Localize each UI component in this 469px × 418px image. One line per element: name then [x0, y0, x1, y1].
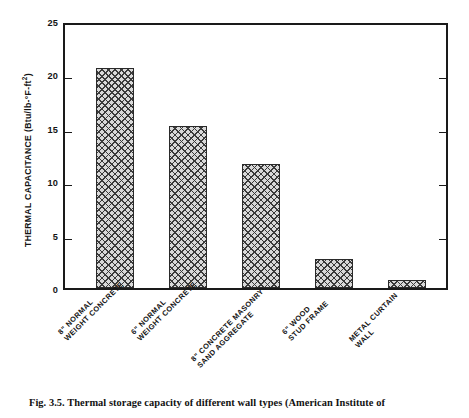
x-tick-label-8in-concrete-masonry-sand-aggregate: 8" CONCRETE MASONRY SAND AGGREGATE — [189, 287, 272, 370]
y-tick-label-25: 25 — [36, 18, 58, 28]
y-tick-mark-left-5 — [65, 239, 72, 240]
y-tick-label-10: 10 — [36, 178, 58, 188]
plot-area — [63, 23, 448, 290]
figure-caption: Fig. 3.5. Thermal storage capacity of di… — [29, 396, 457, 409]
x-label-line1: 8" CONCRETE MASONRY — [189, 287, 266, 364]
y-axis-title-mid: F-ft — [23, 80, 33, 95]
bar-metal-curtain-wall — [388, 280, 426, 288]
y-tick-mark-left-10 — [65, 185, 72, 186]
x-label-line2: SAND AGGREGATE — [196, 293, 273, 370]
y-tick-label-15: 15 — [36, 125, 58, 135]
y-tick-mark-left-20 — [65, 78, 72, 79]
y-tick-mark-right-20 — [439, 78, 446, 79]
y-axis-degree-symbol: ° — [23, 95, 33, 99]
y-tick-label-0: 0 — [36, 285, 58, 295]
y-axis-title-end: ) — [23, 73, 33, 76]
y-tick-mark-right-5 — [439, 239, 446, 240]
x-tick-label-metal-curtain-wall: METAL CURTAIN WALL — [347, 291, 407, 351]
figure-container: THERMAL CAPACITANCE (Btu/lb-°F-ft2) 25 2… — [0, 0, 469, 418]
bar-6in-wood-stud-frame — [315, 259, 353, 288]
y-tick-label-20: 20 — [36, 71, 58, 81]
y-axis-title-main: THERMAL CAPACITANCE (Btu/lb- — [23, 99, 33, 247]
bar-8in-concrete-masonry-sand-aggregate — [242, 164, 280, 288]
y-axis-superscript-two: 2 — [21, 76, 28, 80]
y-tick-label-5: 5 — [36, 232, 58, 242]
x-tick-label-6in-wood-stud-frame: 6" WOOD STUD FRAME — [280, 293, 331, 344]
y-tick-mark-right-15 — [439, 132, 446, 133]
bar-8in-normal-weight-concrete — [96, 68, 134, 288]
y-axis-title: THERMAL CAPACITANCE (Btu/lb-°F-ft2) — [17, 35, 33, 285]
bar-6in-normal-weight-concrete — [169, 126, 207, 288]
y-tick-mark-left-15 — [65, 132, 72, 133]
y-tick-mark-right-10 — [439, 185, 446, 186]
